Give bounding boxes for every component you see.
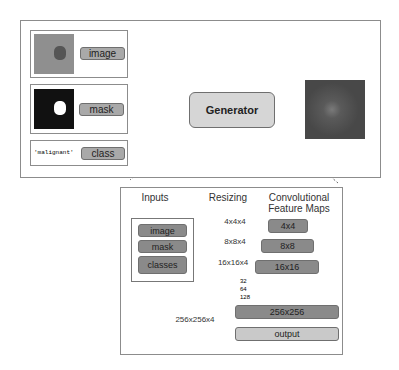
input-mask: mask xyxy=(138,240,187,253)
image-thumbnail xyxy=(34,34,74,74)
input-classes: classes xyxy=(138,256,187,274)
mask-input-card: mask xyxy=(30,84,128,134)
image-input-card: image xyxy=(30,30,128,78)
conv-header-2: Feature Maps xyxy=(264,203,334,214)
channel-128: 128 xyxy=(240,293,250,301)
mask-thumbnail xyxy=(34,89,74,129)
output-block: output xyxy=(235,327,339,341)
fmap-4x4: 4x4 xyxy=(268,219,308,233)
resize-256: 256x256x4 xyxy=(170,315,220,324)
input-image: image xyxy=(138,224,187,237)
class-input-card: 'malignant' class xyxy=(30,140,128,166)
resize-4: 4x4x4 xyxy=(215,217,255,226)
channel-32: 32 xyxy=(240,277,250,285)
resizing-header: Resizing xyxy=(208,192,248,203)
conv-header-1: Convolutional xyxy=(264,192,334,203)
channel-64: 64 xyxy=(240,285,250,293)
fmap-16x16: 16x16 xyxy=(255,260,319,274)
generated-image xyxy=(305,80,365,139)
fmap-8x8: 8x8 xyxy=(261,239,314,253)
inputs-header: Inputs xyxy=(140,192,170,203)
class-label: class xyxy=(81,147,125,160)
resize-8: 8x8x4 xyxy=(215,237,255,246)
fmap-256x256: 256x256 xyxy=(235,305,339,319)
generator-block: Generator xyxy=(189,92,275,128)
mask-label: mask xyxy=(79,103,124,116)
class-text: 'malignant' xyxy=(34,149,74,156)
resize-16: 16x16x4 xyxy=(208,258,258,267)
channel-labels: 32 64 128 xyxy=(240,277,250,301)
image-label: image xyxy=(80,47,125,60)
